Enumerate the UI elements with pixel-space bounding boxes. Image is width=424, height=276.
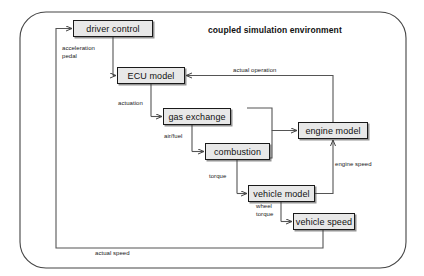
edge-label-acceleration-pedal: acceleration pedal <box>62 45 95 60</box>
edge-speed-to-driver <box>56 29 323 249</box>
node-vehicle-speed-label: vehicle speed <box>296 217 352 227</box>
node-ecu-model[interactable]: ECU model <box>117 67 185 84</box>
node-vehicle-model-label: vehicle model <box>253 189 309 199</box>
edge-vehicle-to-engine <box>315 146 333 194</box>
edge-label-actual-speed: actual speed <box>95 250 130 258</box>
edge-label-air-fuel: air/fuel <box>164 133 182 141</box>
node-combustion[interactable]: combustion <box>205 143 270 160</box>
node-engine-model[interactable]: engine model <box>298 122 368 139</box>
node-driver-control-label: driver control <box>86 24 139 34</box>
node-engine-model-label: engine model <box>305 126 360 136</box>
edge-label-torque: torque <box>209 173 226 181</box>
edge-brace-to-engine <box>247 108 290 131</box>
node-combustion-label: combustion <box>214 147 261 157</box>
node-gas-exchange-label: gas exchange <box>168 112 225 122</box>
edge-label-wheel-torque: wheel torque <box>256 203 273 218</box>
edge-label-engine-speed: engine speed <box>335 161 372 169</box>
edge-label-actual-operation: actual operation <box>233 67 277 75</box>
node-driver-control[interactable]: driver control <box>73 20 153 37</box>
node-vehicle-model[interactable]: vehicle model <box>248 185 315 202</box>
node-gas-exchange[interactable]: gas exchange <box>163 108 231 125</box>
diagram-canvas: coupled simulation environment driver co… <box>0 0 424 276</box>
node-ecu-model-label: ECU model <box>128 71 175 81</box>
environment-title: coupled simulation environment <box>208 25 342 35</box>
edge-label-actuation: actuation <box>118 100 143 108</box>
node-vehicle-speed[interactable]: vehicle speed <box>293 213 355 230</box>
